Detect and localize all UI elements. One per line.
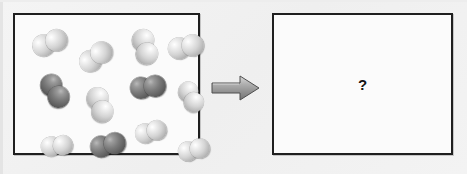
product-box: ? <box>272 13 453 155</box>
page-edge-top <box>0 0 467 2</box>
atom-sphere <box>52 134 74 156</box>
reaction-arrow-icon <box>211 74 261 102</box>
question-mark-label: ? <box>274 15 451 153</box>
page-edge-left <box>0 0 3 174</box>
reaction-diagram: ? <box>0 0 467 174</box>
reactant-box <box>13 13 200 155</box>
